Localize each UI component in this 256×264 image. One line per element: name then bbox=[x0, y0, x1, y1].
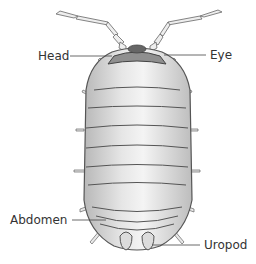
label-head: Head bbox=[38, 49, 69, 63]
label-abdomen: Abdomen bbox=[10, 213, 67, 227]
antenna-left bbox=[56, 11, 126, 52]
antenna-right bbox=[150, 10, 222, 52]
head-top bbox=[128, 45, 146, 53]
label-eye: Eye bbox=[210, 48, 232, 62]
label-uropod: Uropod bbox=[204, 238, 247, 252]
